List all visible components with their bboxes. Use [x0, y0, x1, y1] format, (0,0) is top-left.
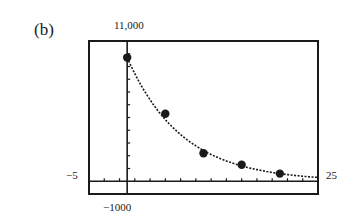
fit-curve	[127, 58, 318, 178]
data-point	[199, 149, 207, 157]
data-point	[123, 53, 131, 61]
window-frame	[89, 41, 318, 194]
plot-area	[0, 0, 350, 219]
data-point	[276, 169, 284, 177]
data-point	[237, 160, 245, 168]
data-point	[161, 109, 169, 117]
